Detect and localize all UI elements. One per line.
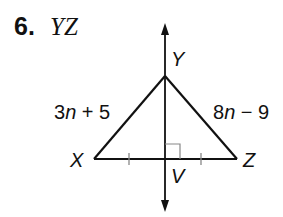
arrow-down-icon [161, 200, 169, 212]
problem-figure: 6. YZ Y X Z V 3n + 5 8n − 9 [0, 0, 283, 217]
point-label-z: Z [242, 149, 256, 171]
triangle-diagram: Y X Z V 3n + 5 8n − 9 [0, 0, 283, 217]
side-label-xy: 3n + 5 [54, 101, 110, 123]
point-label-x: X [69, 149, 84, 171]
perpendicular-bisector-line [161, 23, 169, 212]
arrow-up-icon [161, 23, 169, 35]
point-label-y: Y [171, 48, 186, 70]
right-angle-marker [165, 144, 180, 159]
point-label-v: V [171, 165, 186, 187]
side-label-yz: 8n − 9 [213, 101, 269, 123]
